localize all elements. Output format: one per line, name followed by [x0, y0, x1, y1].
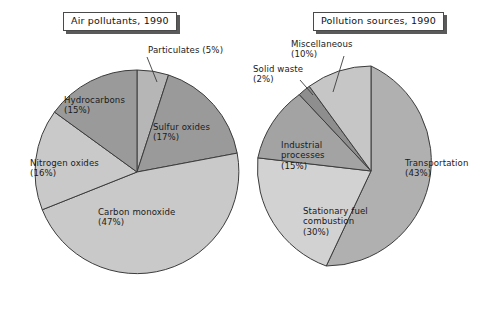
pie-charts-canvas	[0, 0, 501, 311]
pie-label-stationary-fuel-combustion: Stationary fuel combustion (30%)	[303, 206, 368, 237]
pie-label-solid-waste: Solid waste (2%)	[253, 64, 303, 85]
chart-page: Air pollutants, 1990 Pollution sources, …	[0, 0, 501, 311]
pie-label-sulfur-oxides: Sulfur oxides (17%)	[153, 122, 210, 143]
pie-label-miscellaneous: Miscellaneous (10%)	[291, 39, 353, 60]
pie-label-transportation: Transportation (43%)	[405, 158, 468, 179]
pie-label-particulates: Particulates (5%)	[148, 45, 223, 55]
pie-label-industrial-processes: Industrial processes (15%)	[281, 140, 325, 171]
pie-label-hydrocarbons: Hydrocarbons (15%)	[64, 95, 125, 116]
pie-label-nitrogen-oxides: Nitrogen oxides (16%)	[30, 158, 99, 179]
pie-label-carbon-monoxide: Carbon monoxide (47%)	[98, 207, 175, 228]
